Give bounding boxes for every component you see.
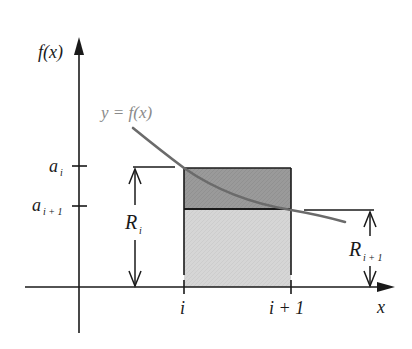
label-r-i-plus-1: R i + 1 — [348, 238, 383, 263]
svg-text:R: R — [124, 211, 137, 233]
svg-text:i + 1: i + 1 — [363, 252, 383, 263]
y-tick-label-a-i: a i — [49, 156, 63, 178]
svg-text:i: i — [60, 167, 63, 178]
y-axis — [74, 37, 84, 333]
y-axis-label: f(x) — [38, 42, 63, 63]
svg-text:a: a — [32, 195, 41, 215]
riemann-rectangle-diagram: f(x) x y = f(x) a i a i + 1 i i + 1 R i … — [0, 0, 412, 349]
y-axis-arrow-icon — [74, 37, 84, 55]
label-r-i: R i — [124, 211, 142, 236]
dimension-r-i-plus-1 — [364, 212, 376, 286]
svg-text:a: a — [49, 156, 58, 176]
lower-rectangle — [184, 209, 291, 287]
x-tick-label-i-plus-1: i + 1 — [269, 298, 304, 318]
x-axis-arrow-icon — [377, 282, 395, 292]
upper-rectangle — [184, 168, 291, 209]
svg-text:i + 1: i + 1 — [43, 206, 63, 217]
x-tick-label-i: i — [180, 298, 185, 318]
svg-text:i: i — [139, 225, 142, 236]
y-tick-label-a-i-plus-1: a i + 1 — [32, 195, 63, 217]
svg-text:R: R — [348, 238, 361, 260]
curve-label: y = f(x) — [99, 103, 152, 122]
x-axis-label: x — [376, 297, 385, 317]
